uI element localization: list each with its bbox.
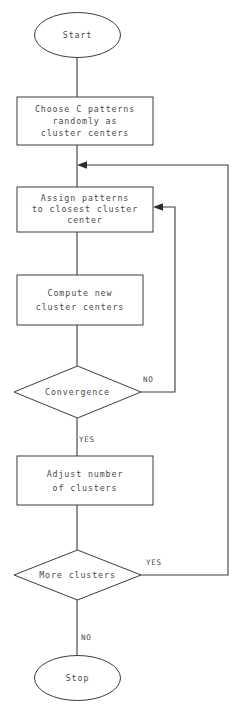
node-stop[interactable]: Stop: [35, 656, 121, 701]
choose-centers-line-1: Choose C patterns: [35, 104, 135, 114]
compute-centers-line-1: Compute new: [48, 288, 113, 298]
more-clusters-label: More clusters: [39, 570, 116, 580]
arrow-head-convergence-no: [153, 203, 163, 210]
adjust-clusters-line-1: Adjust number: [47, 469, 124, 479]
node-compute-centers[interactable]: Compute new cluster centers: [17, 275, 143, 325]
arrow-head-outer-feedback: [77, 161, 87, 168]
stop-label: Stop: [66, 673, 90, 683]
convergence-label: Convergence: [45, 387, 110, 397]
node-more-clusters[interactable]: More clusters: [14, 550, 141, 600]
compute-centers-box: [17, 275, 143, 325]
convergence-yes-label: YES: [79, 435, 95, 444]
start-label: Start: [63, 30, 92, 40]
flowchart-svg: Start Choose C patterns randomly as clus…: [0, 0, 239, 710]
node-choose-centers[interactable]: Choose C patterns randomly as cluster ce…: [17, 97, 153, 145]
node-adjust-clusters[interactable]: Adjust number of clusters: [17, 456, 153, 505]
node-assign-patterns[interactable]: Assign patterns to closest cluster cente…: [17, 187, 153, 232]
node-convergence[interactable]: Convergence: [14, 366, 141, 418]
edge-more-clusters-yes-feedback: [86, 165, 228, 575]
node-start[interactable]: Start: [35, 13, 121, 58]
adjust-clusters-box: [17, 456, 153, 505]
more-clusters-no-label: NO: [81, 633, 92, 642]
assign-patterns-line-1: Assign patterns: [41, 193, 129, 203]
more-clusters-yes-label: YES: [146, 558, 162, 567]
choose-centers-line-2: randomly as: [53, 116, 118, 126]
edge-convergence-no-feedback: [141, 207, 175, 392]
flowchart-canvas: Start Choose C patterns randomly as clus…: [0, 0, 239, 710]
assign-patterns-line-2: to closest cluster: [32, 204, 138, 214]
adjust-clusters-line-2: of clusters: [53, 483, 118, 493]
convergence-no-label: NO: [143, 375, 154, 384]
assign-patterns-line-3: center: [67, 215, 102, 225]
choose-centers-line-3: cluster centers: [41, 128, 129, 138]
compute-centers-line-2: cluster centers: [36, 302, 124, 312]
